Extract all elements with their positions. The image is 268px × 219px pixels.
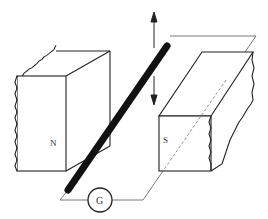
arrow-down-icon xyxy=(151,95,157,105)
south-pole-label: S xyxy=(163,135,168,145)
magnet-south xyxy=(159,52,254,171)
conducting-rod xyxy=(68,46,167,190)
galvanometer: G xyxy=(88,188,112,212)
north-pole-label: N xyxy=(50,138,57,148)
induction-diagram: N S G xyxy=(0,0,268,219)
arrow-up-icon xyxy=(151,12,157,22)
galvanometer-label: G xyxy=(96,195,103,206)
